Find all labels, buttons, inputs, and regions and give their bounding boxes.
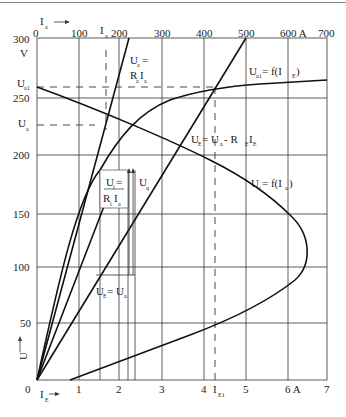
curve-ua-f-ia [37,87,307,380]
top-marker-ia-sub: a [105,33,108,39]
svg-text:a: a [258,185,261,191]
top-axis-name-sub: a [45,24,48,30]
svg-text:): ) [296,65,300,78]
y-unit-label: V [20,47,28,59]
svg-text:q: q [146,185,149,191]
bottom-marker-ie1-sub: E1 [218,392,225,398]
y-tick-200: 200 [13,149,30,161]
top-tick-400: 400 [196,27,213,39]
y-label-ua-sub: a [26,126,29,132]
bottom-marker-ie1: I [213,383,217,395]
svg-text:=: = [142,54,148,66]
y-tick-300: 300 [13,33,30,45]
bottom-tick-2: 2 [116,383,122,395]
svg-text:a: a [285,185,288,191]
bottom-axis-name-sub: E [45,397,49,403]
svg-text:a: a [124,293,127,299]
bottom-tick-3: 3 [159,383,165,395]
bottom-tick-5: 5 [243,383,249,395]
y-tick-0: 0 [25,383,31,395]
svg-text:): ) [289,177,293,190]
svg-text:E: E [253,141,257,147]
top-axis-name: I [40,15,44,27]
y-axis-labels: 300 V U a1 250 U a 200 150 100 50 U 0 [13,33,32,395]
curve-ua-ra-ia [37,38,129,380]
top-tick-700: 700 [318,27,335,39]
svg-text:= U: = U [107,285,124,297]
bottom-tick-1: 1 [76,383,82,395]
y-label-ua1-sub: a1 [24,85,30,91]
bottom-tick-6: 6 A [285,383,301,395]
svg-text:= f(I: = f(I [262,65,282,78]
bottom-tick-7: 7 [324,383,330,395]
top-tick-600: 600 A [280,27,307,39]
y-tick-50: 50 [20,317,32,329]
top-tick-0: 0 [33,27,39,39]
svg-text:- R: - R [224,133,238,145]
top-tick-200: 200 [111,27,128,39]
y-tick-150: 150 [13,208,30,220]
bottom-tick-4: 4 [201,383,207,395]
reference-dashes [37,50,215,380]
bottom-axis-name: I [40,388,44,400]
svg-text:a: a [118,201,121,207]
svg-text:a: a [137,62,140,68]
top-axis-labels: I a 0 100 I a 200 300 400 500 600 A 700 [33,15,335,39]
svg-text:= f(I: = f(I [262,177,282,190]
svg-text:a: a [144,78,147,84]
y-tick-100: 100 [13,261,30,273]
top-tick-100: 100 [71,27,88,39]
y-tick-250: 250 [13,92,30,104]
svg-text:= U: = U [202,133,219,145]
svg-text:a1: a1 [256,73,262,79]
y-axis-name: U [17,352,29,360]
top-tick-500: 500 [238,27,255,39]
svg-text:a: a [136,78,139,84]
top-tick-300: 300 [154,27,171,39]
bottom-axis-labels: I E 1 2 3 4 I E1 5 6 A 7 [40,383,330,403]
chart: 300 V U a1 250 U a 200 150 100 50 U 0 I … [0,0,346,417]
top-marker-ia: I [100,24,104,36]
svg-text:a: a [220,141,223,147]
y-label-ua: U [18,117,26,129]
curves [37,38,327,380]
svg-text:=: = [116,176,122,188]
